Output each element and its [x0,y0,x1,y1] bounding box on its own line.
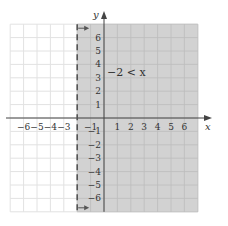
svg-text:5: 5 [168,122,174,132]
svg-text:1: 1 [115,122,121,132]
svg-text:−4: −4 [88,167,102,177]
inequality-label: −2 < x [107,66,146,79]
svg-text:−3: −3 [88,153,102,163]
svg-text:−2: −2 [88,140,101,150]
svg-text:−6: −6 [88,193,102,203]
svg-text:1: 1 [95,100,101,110]
svg-text:−3: −3 [57,122,71,132]
svg-text:3: 3 [95,73,101,83]
svg-text:4: 4 [155,122,161,132]
x-axis-label: x [205,121,211,132]
svg-text:2: 2 [95,86,101,96]
svg-text:2: 2 [128,122,134,132]
y-axis-arrow-icon [101,11,107,19]
inequality-graph: −6−5−4−3−1123456 654321−1−2−3−4−5−6 x y … [0,0,228,226]
svg-text:4: 4 [95,59,101,69]
svg-text:6: 6 [95,33,101,43]
y-axis-label: y [92,9,99,20]
svg-text:3: 3 [141,122,147,132]
svg-text:5: 5 [95,46,101,56]
svg-text:−5: −5 [30,122,44,132]
svg-text:−6: −6 [17,122,31,132]
svg-text:−5: −5 [88,180,102,190]
svg-text:6: 6 [182,122,188,132]
svg-text:−4: −4 [44,122,58,132]
svg-text:−1: −1 [88,126,101,136]
